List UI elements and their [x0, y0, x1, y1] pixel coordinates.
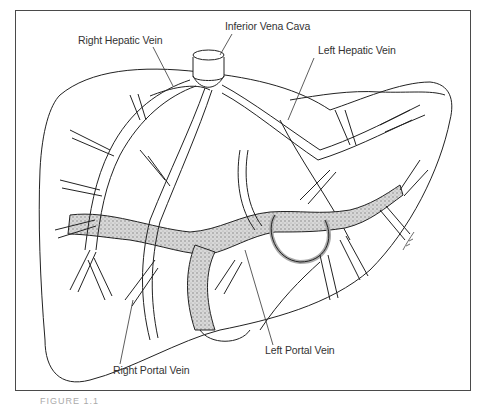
liver-illustration: [0, 0, 483, 405]
portal-vein-system: [68, 185, 403, 330]
label-left-portal-vein: Left Portal Vein: [265, 344, 335, 356]
figure-caption-fragment: FIGURE 1.1: [40, 396, 99, 405]
inferior-vena-cava: [193, 50, 224, 87]
label-right-portal-vein: Right Portal Vein: [113, 364, 190, 376]
label-right-hepatic-vein: Right Hepatic Vein: [78, 34, 163, 46]
label-left-hepatic-vein: Left Hepatic Vein: [318, 44, 396, 56]
artist-signature: [403, 232, 414, 250]
label-inferior-vena-cava: Inferior Vena Cava: [225, 20, 310, 32]
